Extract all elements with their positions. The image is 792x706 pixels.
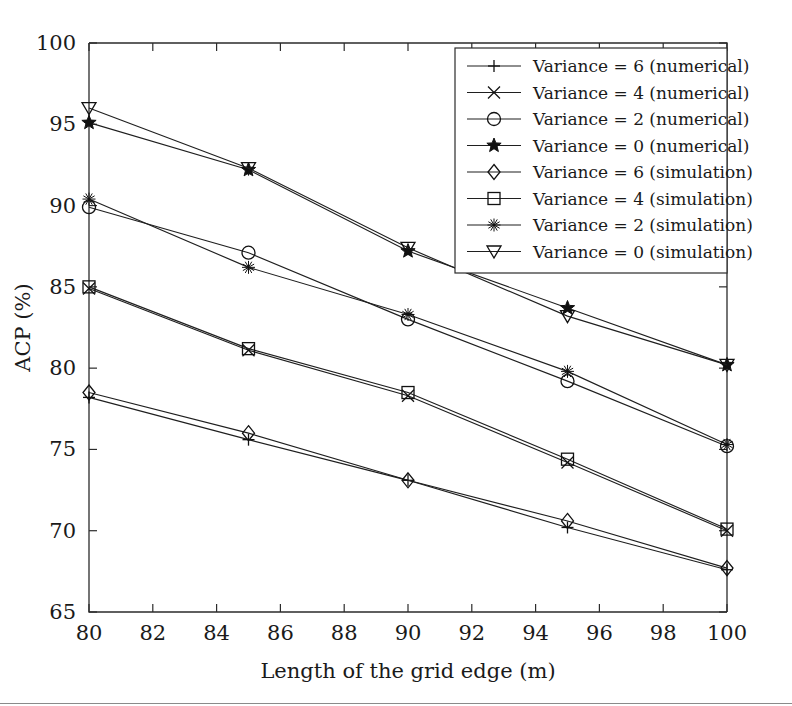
y-tick-label-70: 70 <box>49 519 76 543</box>
y-tick-label-80: 80 <box>49 356 76 380</box>
y-tick-label-95: 95 <box>49 112 76 136</box>
y-tick-label-90: 90 <box>49 194 76 218</box>
y-tick-label-85: 85 <box>49 275 76 299</box>
x-tick-label-94: 94 <box>522 621 549 645</box>
x-axis-title: Length of the grid edge (m) <box>260 659 555 683</box>
legend-label-7: Variance = 0 (simulation) <box>532 242 753 262</box>
x-tick-label-80: 80 <box>76 621 103 645</box>
y-tick-label-100: 100 <box>36 31 76 55</box>
chart-figure: 8082848688909294969810065707580859095100… <box>0 0 792 706</box>
series-line-1 <box>89 288 727 530</box>
chart-canvas: 8082848688909294969810065707580859095100… <box>0 0 792 706</box>
y-tick-label-75: 75 <box>49 437 76 461</box>
legend-label-3: Variance = 0 (numerical) <box>532 136 749 156</box>
legend-label-5: Variance = 4 (simulation) <box>532 189 753 209</box>
x-tick-label-86: 86 <box>267 621 294 645</box>
series-6-marker-2 <box>402 308 415 321</box>
series-6-marker-1 <box>242 261 255 274</box>
series-3-marker-3 <box>560 300 574 314</box>
legend-label-2: Variance = 2 (numerical) <box>532 109 749 129</box>
series-1-marker-3 <box>562 456 574 468</box>
y-tick-label-65: 65 <box>49 600 76 624</box>
x-tick-label-84: 84 <box>203 621 230 645</box>
y-axis-title: ACP (%) <box>11 283 35 372</box>
x-tick-label-88: 88 <box>331 621 358 645</box>
legend-label-4: Variance = 6 (simulation) <box>532 162 753 182</box>
x-tick-label-92: 92 <box>458 621 485 645</box>
x-tick-label-90: 90 <box>395 621 422 645</box>
series-line-5 <box>89 287 727 529</box>
x-tick-label-98: 98 <box>650 621 677 645</box>
series-6-marker-0 <box>83 193 96 206</box>
x-tick-label-82: 82 <box>139 621 166 645</box>
page-footer-rule <box>0 703 792 704</box>
series-line-4 <box>89 393 727 569</box>
x-tick-label-100: 100 <box>707 621 747 645</box>
legend-label-1: Variance = 4 (numerical) <box>532 83 749 103</box>
legend-label-0: Variance = 6 (numerical) <box>532 56 749 76</box>
legend-label-6: Variance = 2 (simulation) <box>532 215 753 235</box>
x-tick-label-96: 96 <box>586 621 613 645</box>
